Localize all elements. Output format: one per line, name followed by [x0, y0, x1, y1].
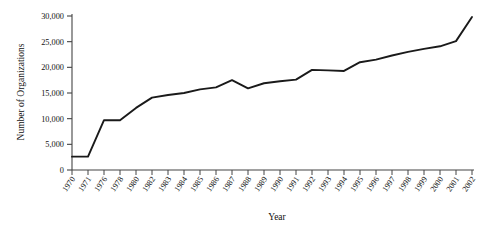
x-axis-tick-label: 2001: [444, 175, 461, 193]
y-axis-tick-label: 20,000: [41, 63, 64, 72]
y-axis-tick-label: 5,000: [45, 140, 64, 149]
x-axis-tick-label: 1980: [124, 175, 141, 193]
x-axis-tick-label: 1982: [140, 175, 157, 193]
x-axis: 1970197119761978198019821983198419851986…: [60, 170, 477, 193]
y-axis-title: Number of Organizations: [16, 43, 26, 140]
x-axis-tick-label: 1994: [332, 175, 349, 193]
x-axis-tick-label: 1988: [236, 175, 253, 193]
y-axis-tick-label: 0: [60, 166, 64, 175]
x-axis-tick-label: 1991: [284, 175, 301, 193]
x-axis-tick-label: 1984: [172, 175, 189, 193]
x-axis-tick-label: 1983: [156, 175, 173, 193]
x-axis-tick-label: 1992: [300, 175, 317, 193]
y-axis: 05,00010,00015,00020,00025,00030,000: [41, 12, 72, 175]
y-axis-tick-label: 10,000: [41, 115, 64, 124]
x-axis-tick-label: 1995: [348, 175, 365, 193]
x-axis-tick-label: 1989: [252, 175, 269, 193]
x-axis-tick-label: 1993: [316, 175, 333, 193]
y-axis-tick-label: 15,000: [41, 89, 64, 98]
x-axis-tick-label: 1996: [364, 175, 381, 193]
y-axis-tick-label: 30,000: [41, 12, 64, 21]
data-series-organizations: [72, 17, 472, 157]
x-axis-title: Year: [268, 212, 286, 222]
chart-container: 05,00010,00015,00020,00025,00030,000 197…: [0, 0, 500, 235]
x-axis-tick-label: 1971: [76, 175, 93, 193]
y-axis-tick-label: 25,000: [41, 38, 64, 47]
x-axis-tick-label: 1990: [268, 175, 285, 193]
x-axis-tick-label: 1997: [380, 175, 397, 193]
x-axis-tick-label: 1985: [188, 175, 205, 193]
x-axis-tick-label: 2002: [460, 175, 477, 193]
x-axis-tick-label: 1976: [92, 175, 109, 193]
series-line: [72, 17, 472, 157]
x-axis-tick-label: 2000: [428, 175, 445, 193]
x-axis-tick-label: 1998: [396, 175, 413, 193]
x-axis-tick-label: 1999: [412, 175, 429, 193]
x-axis-tick-label: 1987: [220, 175, 237, 193]
x-axis-tick-label: 1986: [204, 175, 221, 193]
line-chart: 05,00010,00015,00020,00025,00030,000 197…: [0, 0, 500, 235]
x-axis-tick-label: 1978: [108, 175, 125, 193]
x-axis-tick-label: 1970: [60, 175, 77, 193]
